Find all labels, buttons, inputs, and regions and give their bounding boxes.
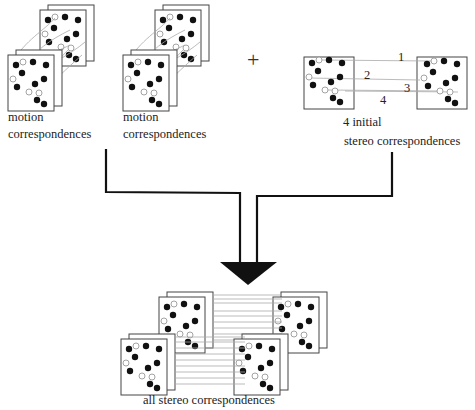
merge-arrow-head-icon [220,262,277,285]
stereo-number-1: 1 [398,50,404,64]
stereo-number-3: 3 [404,81,410,95]
motion-label-2-line2: correspondences [123,127,206,141]
stereo-initial: 1 2 3 4 4 initial stereo correspondences [304,50,467,148]
flow-line-right [257,152,392,262]
stereo-all: all stereo correspondences [121,292,327,407]
flow-line-left [106,149,240,262]
plus-operator: + [247,47,259,72]
stereo-number-4: 4 [380,93,387,107]
motion-label-1-line1: motion [8,110,44,124]
stereo-number-2: 2 [364,68,370,82]
stereo-label-line1: 4 initial [343,115,382,129]
stereo-all-links-top [213,295,282,340]
output-label: all stereo correspondences [143,393,275,407]
motion-correspondences-2: motion correspondences [123,5,209,141]
motion-label-1-line2: correspondences [8,127,91,141]
stereo-label-line2: stereo correspondences [344,134,460,148]
diagram-canvas: motion correspondences motion correspond… [0,0,475,410]
motion-label-2-line1: motion [123,110,159,124]
flow-connector [106,149,392,285]
motion-correspondences-1: motion correspondences [8,5,94,141]
